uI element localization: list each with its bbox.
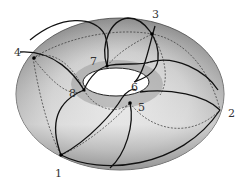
point-label-6: 6	[131, 82, 138, 93]
torus-diagram	[0, 0, 244, 186]
point-label-2: 2	[228, 108, 235, 119]
point-label-1: 1	[55, 168, 62, 179]
point-3-marker	[150, 32, 154, 36]
point-4-marker	[32, 56, 36, 60]
point-label-3: 3	[152, 9, 159, 20]
point-7-marker	[105, 64, 108, 67]
point-label-8: 8	[69, 88, 76, 99]
point-1-marker	[59, 153, 63, 157]
point-label-7: 7	[90, 56, 97, 67]
torus-hole	[83, 68, 149, 96]
torus-surface	[16, 18, 224, 170]
point-5-marker	[128, 101, 132, 105]
point-8-marker	[82, 88, 85, 91]
point-label-4: 4	[14, 47, 21, 58]
point-label-5: 5	[138, 102, 145, 113]
